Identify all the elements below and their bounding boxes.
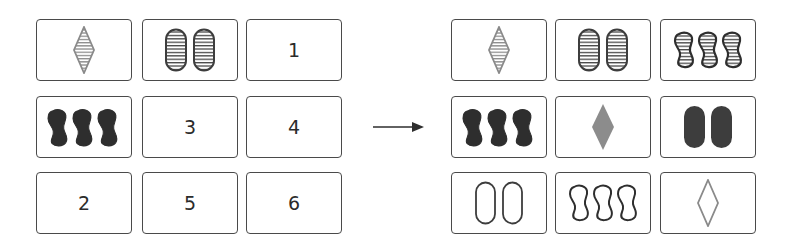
outline-diamond-icon xyxy=(697,179,719,227)
right-card-striped-ovals xyxy=(555,19,651,81)
right-card-solid-diamond xyxy=(555,96,651,158)
striped-squiggles-icon xyxy=(672,29,744,71)
right-card-outline-diamond xyxy=(660,172,756,234)
right-card-outline-squiggles xyxy=(555,172,651,234)
striped-ovals-icon xyxy=(164,28,216,72)
left-card-striped-diamond xyxy=(36,19,132,81)
striped-ovals-icon xyxy=(577,28,629,72)
outline-squiggles-icon xyxy=(567,182,639,224)
card-number-label: 1 xyxy=(288,39,300,61)
striped-diamond-icon xyxy=(73,26,95,74)
left-card-blank-5[interactable]: 5 xyxy=(142,172,238,234)
right-card-solid-squiggles xyxy=(451,96,547,158)
card-number-label: 5 xyxy=(184,192,196,214)
striped-diamond-icon xyxy=(488,26,510,74)
card-number-label: 4 xyxy=(288,116,300,138)
right-arrow-icon xyxy=(372,119,426,135)
solid-squiggles-icon xyxy=(461,106,537,148)
right-card-striped-diamond xyxy=(451,19,547,81)
left-card-blank-2[interactable]: 2 xyxy=(36,172,132,234)
card-number-label: 6 xyxy=(288,192,300,214)
right-card-outline-ovals xyxy=(451,172,547,234)
left-card-blank-1[interactable]: 1 xyxy=(246,19,342,81)
solid-diamond-icon xyxy=(591,103,615,151)
left-card-solid-squiggles xyxy=(36,96,132,158)
right-card-solid-ovals xyxy=(660,96,756,158)
card-number-label: 3 xyxy=(184,116,196,138)
card-number-label: 2 xyxy=(78,192,90,214)
solid-ovals-icon xyxy=(683,105,733,149)
left-card-blank-6[interactable]: 6 xyxy=(246,172,342,234)
solid-squiggles-icon xyxy=(46,106,122,148)
left-card-blank-4[interactable]: 4 xyxy=(246,96,342,158)
left-card-striped-ovals xyxy=(142,19,238,81)
right-card-striped-squiggles xyxy=(660,19,756,81)
outline-ovals-icon xyxy=(474,181,524,225)
left-card-blank-3[interactable]: 3 xyxy=(142,96,238,158)
